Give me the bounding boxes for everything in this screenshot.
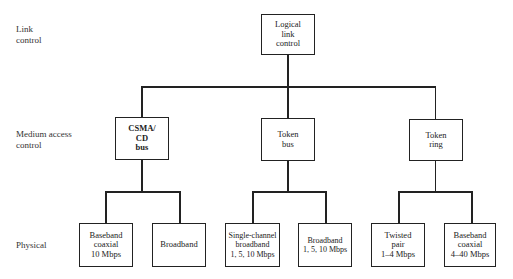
connector-root-down bbox=[287, 54, 289, 88]
node-label: Broadband bbox=[160, 240, 197, 250]
node-label: Logical link control bbox=[275, 20, 301, 49]
connector-phys-2 bbox=[179, 191, 181, 224]
node-label: Token ring bbox=[425, 131, 446, 150]
node-twisted-pair: Twisted pair 1–4 Mbps bbox=[371, 223, 425, 267]
node-label: Twisted pair 1–4 Mbps bbox=[381, 231, 415, 260]
layer-label-medium-access-control: Medium access control bbox=[16, 129, 72, 151]
node-label: CSMA/ CD bus bbox=[128, 124, 155, 153]
node-label: Broadband 1, 5, 10 Mbps bbox=[303, 236, 347, 255]
connector-mac-horizontal bbox=[141, 86, 436, 88]
connector-token-ring-horizontal bbox=[398, 191, 472, 193]
connector-csma-horizontal bbox=[105, 191, 180, 193]
node-label: Baseband coaxial 10 Mbps bbox=[89, 231, 122, 260]
layer-label-link-control: Link control bbox=[16, 24, 42, 46]
node-baseband-coaxial-10: Baseband coaxial 10 Mbps bbox=[79, 223, 133, 267]
connector-token-bus-horizontal bbox=[252, 191, 326, 193]
connector-token-bus bbox=[287, 86, 289, 118]
node-baseband-coaxial-4-40: Baseband coaxial 4–40 Mbps bbox=[444, 223, 496, 267]
node-single-channel-broadband: Single-channel broadband 1, 5, 10 Mbps bbox=[225, 223, 280, 267]
node-token-ring: Token ring bbox=[409, 119, 463, 161]
layer-label-physical: Physical bbox=[16, 240, 47, 251]
connector-csma bbox=[141, 86, 143, 118]
node-logical-link-control: Logical link control bbox=[261, 14, 315, 55]
node-token-bus: Token bus bbox=[261, 118, 315, 161]
connector-phys-5 bbox=[398, 191, 400, 224]
node-label: Baseband coaxial 4–40 Mbps bbox=[451, 231, 490, 260]
connector-token-ring-down bbox=[435, 160, 437, 192]
node-csma-cd-bus: CSMA/ CD bus bbox=[115, 117, 169, 160]
connector-phys-6 bbox=[471, 191, 473, 224]
node-label: Single-channel broadband 1, 5, 10 Mbps bbox=[229, 231, 277, 260]
node-broadband: Broadband bbox=[152, 223, 206, 267]
connector-csma-down bbox=[141, 159, 143, 192]
node-label: Token bus bbox=[277, 130, 298, 149]
connector-phys-3 bbox=[252, 191, 254, 224]
connector-phys-1 bbox=[105, 191, 107, 224]
connector-token-ring bbox=[435, 86, 437, 119]
node-broadband-token-bus: Broadband 1, 5, 10 Mbps bbox=[298, 223, 352, 267]
connector-phys-4 bbox=[325, 191, 327, 224]
connector-token-bus-down bbox=[287, 160, 289, 192]
